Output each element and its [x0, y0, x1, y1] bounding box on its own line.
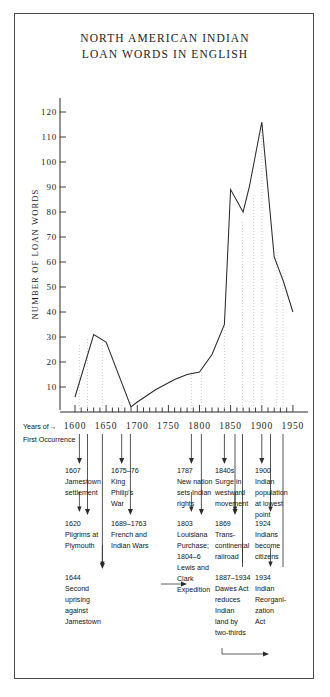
annotation-1675-line-1: King	[111, 478, 125, 486]
annotation-1924-year: 1924	[255, 520, 271, 528]
y-tick-label-60: 60	[46, 257, 57, 267]
annotation-1620-year: 1620	[65, 520, 81, 528]
annotation-1900-year: 1900	[255, 467, 271, 475]
annotation-1869-line-1: Trans-	[215, 531, 236, 539]
x-tick-label-1800: 1800	[188, 421, 211, 431]
x-axis-label-arrow: →	[49, 423, 56, 431]
annotation-1644-line-4: Jamestown	[65, 618, 101, 626]
annotation-1924-line-3: citizens	[255, 553, 279, 561]
annotation-1887: 1887–1934 Dawes Act reduces Indian land …	[215, 574, 251, 637]
annotation-1689-year: 1689–1763	[111, 520, 147, 528]
annotation-1644-line-2: uprising	[65, 596, 90, 604]
x-tick-marks	[75, 405, 293, 412]
x-axis-label-line-2: First Occurrence	[23, 436, 75, 444]
annotation-1787: 1787 New nation sets Indian rights	[177, 467, 213, 508]
x-tick-label-1900: 1900	[250, 421, 273, 431]
annotation-1689: 1689–1763 French and Indian Wars	[111, 520, 149, 550]
arrowhead-1607	[77, 458, 82, 464]
arrowhead-dawes-act	[263, 652, 269, 657]
y-axis: 120 110 100 90 80 70 60 50 40 30 20 10 N…	[30, 98, 66, 410]
annotation-1620-line-2: Plymouth	[65, 542, 95, 550]
annotation-1607-line-2: settlement	[65, 489, 98, 497]
y-tick-label-20: 20	[46, 357, 57, 367]
x-axis-label-line-1: Years of	[23, 423, 49, 431]
annotation-1787-line-2: sets Indian	[177, 489, 211, 497]
x-tick-label-1650: 1650	[95, 421, 118, 431]
annotation-1644: 1644 Second uprising against Jamestown	[65, 574, 101, 626]
arrowhead-1803	[199, 509, 204, 515]
annotation-1803-line-3: 1804–6	[177, 553, 201, 561]
annotation-1887-line-3: Indian	[215, 607, 234, 615]
arrowhead-1689	[128, 509, 133, 515]
annotation-1887-line-4: land by	[215, 618, 238, 626]
arrowhead-1787	[189, 458, 194, 464]
x-tick-label-1850: 1850	[219, 421, 242, 431]
annotation-1934-line-1: Indian	[255, 585, 274, 593]
x-tick-label-1950: 1950	[282, 421, 305, 431]
annotation-1607: 1607 Jamestown settlement	[65, 467, 101, 497]
chart-canvas: 120 110 100 90 80 70 60 50 40 30 20 10 N…	[15, 14, 315, 680]
y-tick-label-10: 10	[46, 382, 57, 392]
y-tick-label-100: 100	[41, 157, 57, 167]
arrowhead-1675	[119, 458, 124, 464]
annotation-1787-line-3: rights	[177, 500, 195, 508]
y-axis-label: NUMBER OF LOAN WORDS	[30, 189, 40, 320]
annotation-1924: 1924 Indians become citizens	[255, 520, 280, 561]
annotation-1934-line-3: zation	[255, 607, 274, 615]
arrowhead-1840	[222, 458, 227, 464]
y-tick-label-110: 110	[41, 132, 57, 142]
annotation-1803-line-6: Expedition	[177, 586, 210, 594]
annotation-1675-line-2: Philip's	[111, 489, 134, 497]
y-tick-label-30: 30	[46, 332, 57, 342]
annotation-1924-line-1: Indians	[255, 531, 278, 539]
data-series-line	[75, 122, 293, 407]
y-tick-label-70: 70	[46, 232, 57, 242]
annotation-1900-line-3: at lowest	[255, 500, 283, 508]
annotation-1689-line-1: French and	[111, 531, 147, 539]
chart-svg: 120 110 100 90 80 70 60 50 40 30 20 10 N…	[15, 14, 315, 680]
annotation-dotted-lines	[79, 123, 283, 412]
annotation-1840s-line-3: movement	[215, 500, 248, 508]
y-tick-label-50: 50	[46, 282, 57, 292]
annotation-1934: 1934 Indian Reorgani- zation Act	[255, 574, 287, 626]
annotation-1787-year: 1787	[177, 467, 193, 475]
annotation-1840s-line-1: Surge in	[215, 478, 241, 486]
annotation-1934-line-4: Act	[255, 618, 265, 626]
annotation-1924-line-2: become	[255, 542, 280, 550]
annotation-1644-line-3: against	[65, 607, 88, 615]
y-tick-label-120: 120	[41, 107, 57, 117]
x-tick-label-1600: 1600	[64, 421, 87, 431]
x-tick-label-1750: 1750	[157, 421, 180, 431]
arrowhead-connector-1924-1934	[268, 562, 272, 568]
annotation-1887-line-2: reduces	[215, 596, 241, 604]
y-tick-marks	[60, 112, 66, 387]
annotation-1869-line-3: railroad	[215, 553, 239, 561]
annotation-1644-year: 1644	[65, 574, 81, 582]
annotation-1869-line-2: continental	[215, 542, 250, 550]
annotation-1803-line-5: Clark	[177, 575, 194, 583]
annotation-1689-line-2: Indian Wars	[111, 542, 149, 550]
annotation-1803: 1803 Louisiana Purchase; 1804–6 Lewis an…	[177, 520, 210, 594]
arrowhead-1900	[259, 458, 264, 464]
arrowhead-1620	[85, 509, 90, 515]
annotation-1840s: 1840s Surge in westward movement	[214, 467, 248, 508]
figure-frame: NORTH AMERICAN INDIAN LOAN WORDS IN ENGL…	[14, 13, 314, 679]
annotation-1675-line-3: War	[111, 500, 124, 508]
annotation-1934-line-2: Reorgani-	[255, 596, 287, 604]
annotation-1900-line-4: point	[255, 511, 270, 519]
y-tick-label-90: 90	[46, 182, 57, 192]
annotation-1887-year: 1887–1934	[215, 574, 251, 582]
annotation-1675-year: 1675–76	[111, 467, 139, 475]
annotation-1607-year: 1607	[65, 467, 81, 475]
annotation-1900-line-1: Indian	[255, 478, 274, 486]
annotation-1675: 1675–76 King Philip's War	[111, 467, 139, 508]
annotation-1887-line-1: Dawes Act	[215, 585, 249, 593]
x-axis: 1600 1650 1700 1750 1800 1850 1900 1950 …	[23, 405, 308, 444]
annotation-1803-line-2: Purchase;	[177, 542, 209, 550]
annotation-1620-line-1: Pilgrims at	[65, 531, 98, 539]
x-tick-label-1700: 1700	[126, 421, 149, 431]
annotation-1644-line-1: Second	[65, 585, 89, 593]
annotation-1934-year: 1934	[255, 574, 271, 582]
annotation-1803-line-4: Lewis and	[177, 564, 209, 572]
annotation-1787-line-1: New nation	[177, 478, 213, 486]
